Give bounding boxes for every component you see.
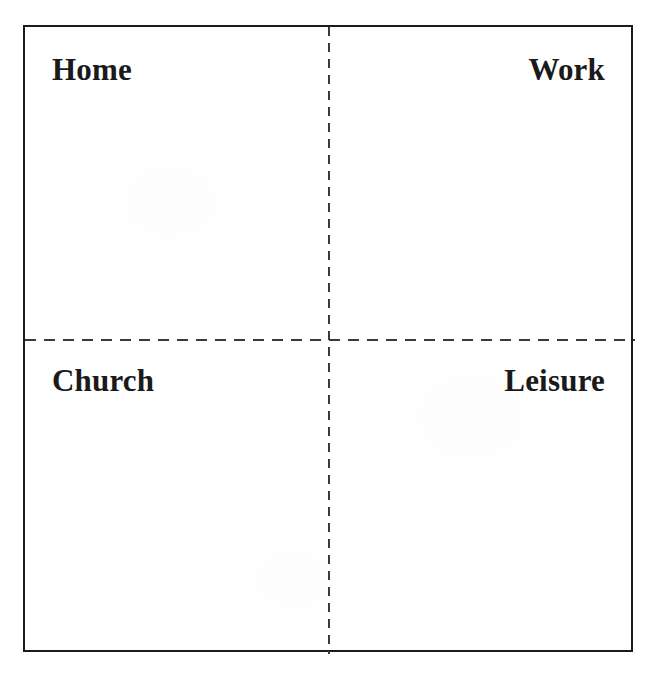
quadrant-label-work: Work — [528, 54, 605, 85]
quadrant-top-right: Work — [328, 27, 631, 339]
document-canvas: Home Work Church Leisure — [0, 0, 653, 673]
quadrant-label-leisure: Leisure — [504, 365, 605, 396]
quadrant-frame: Home Work Church Leisure — [23, 25, 633, 652]
quadrant-bottom-left: Church — [25, 339, 328, 651]
quadrant-top-left: Home — [25, 27, 328, 339]
quadrant-bottom-right: Leisure — [328, 339, 631, 651]
quadrant-label-home: Home — [52, 54, 132, 85]
quadrant-label-church: Church — [52, 365, 154, 396]
